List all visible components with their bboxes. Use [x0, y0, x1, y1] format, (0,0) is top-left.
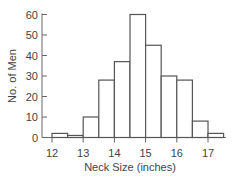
histogram-bar — [177, 80, 193, 137]
y-tick-label: 0 — [32, 132, 38, 144]
histogram-bar — [146, 45, 162, 137]
x-tick-label: 17 — [202, 147, 214, 159]
bars — [52, 15, 224, 138]
histogram-bar — [161, 76, 177, 138]
x-axis: 121314151617 — [42, 138, 226, 159]
histogram-bar — [99, 80, 115, 137]
histogram-bar — [68, 135, 84, 137]
y-tick-label: 30 — [26, 70, 38, 82]
histogram-bar — [114, 62, 130, 138]
y-axis: 0102030405060 — [26, 9, 47, 144]
y-tick-label: 40 — [26, 50, 38, 62]
y-tick-label: 60 — [26, 9, 38, 21]
histogram-chart: 0102030405060 121314151617 No. of Men Ne… — [0, 0, 237, 182]
histogram-bar — [208, 133, 224, 137]
y-tick-label: 50 — [26, 29, 38, 41]
histogram-bar — [192, 121, 208, 137]
y-axis-label: No. of Men — [6, 49, 18, 103]
x-tick-label: 16 — [171, 147, 183, 159]
x-tick-label: 13 — [77, 147, 89, 159]
x-tick-label: 12 — [46, 147, 58, 159]
y-tick-label: 20 — [26, 91, 38, 103]
histogram-bar — [83, 117, 99, 138]
y-tick-label: 10 — [26, 111, 38, 123]
histogram-bar — [52, 133, 68, 137]
x-tick-label: 15 — [139, 147, 151, 159]
histogram-bar — [130, 15, 146, 138]
x-axis-label: Neck Size (inches) — [84, 161, 176, 173]
x-tick-label: 14 — [108, 147, 120, 159]
